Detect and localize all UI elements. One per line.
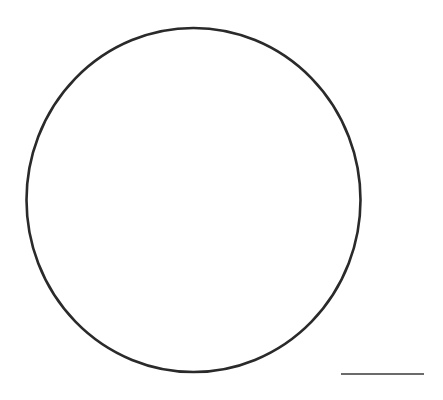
drawing-canvas xyxy=(0,0,443,400)
circle-shape xyxy=(27,28,361,372)
